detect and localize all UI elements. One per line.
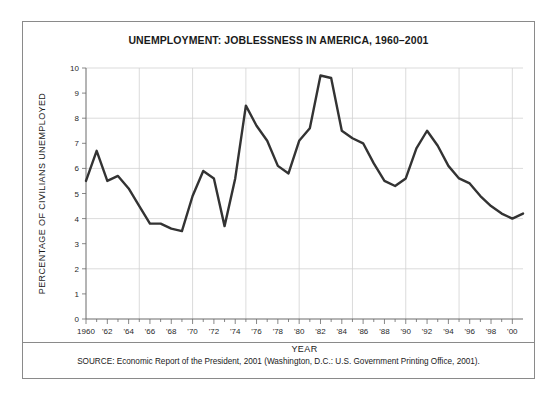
y-tick-label: 4 xyxy=(75,215,80,224)
y-tick-label: 2 xyxy=(75,265,80,274)
y-tick-label: 7 xyxy=(75,139,80,148)
x-tick-label: '00 xyxy=(507,327,518,336)
x-tick-label: '84 xyxy=(337,327,348,336)
x-tick-label: '94 xyxy=(443,327,454,336)
x-tick-label: '74 xyxy=(230,327,241,336)
x-tick-label: '88 xyxy=(379,327,390,336)
x-tick-label: '66 xyxy=(145,327,156,336)
plot-area: 012345678910 1960'62'64'66'68'70'72'74'7… xyxy=(23,22,536,380)
x-tick-label: '86 xyxy=(358,327,369,336)
unemployment-rate-series xyxy=(86,76,523,232)
x-axis-label: YEAR xyxy=(291,344,317,354)
x-tick-label: '92 xyxy=(422,327,433,336)
line-chart-svg: 012345678910 1960'62'64'66'68'70'72'74'7… xyxy=(23,22,536,380)
x-axis-ticks: 1960'62'64'66'68'70'72'74'76'78'80'82'84… xyxy=(77,319,518,336)
y-axis-label: PERCENTAGE OF CIVILIANS UNEMPLOYED xyxy=(37,93,47,295)
x-gridlines xyxy=(139,68,512,319)
x-tick-label: '96 xyxy=(464,327,475,336)
y-tick-label: 10 xyxy=(70,64,79,73)
x-tick-label: '78 xyxy=(273,327,284,336)
y-tick-label: 6 xyxy=(75,164,80,173)
y-tick-label: 0 xyxy=(75,315,80,324)
x-tick-label: '64 xyxy=(123,327,134,336)
y-gridlines xyxy=(86,68,523,269)
source-note: SOURCE: Economic Report of the President… xyxy=(23,357,534,366)
x-tick-label: '72 xyxy=(209,327,220,336)
y-axis-ticks: 012345678910 xyxy=(70,64,86,324)
x-tick-label: '68 xyxy=(166,327,177,336)
y-tick-label: 9 xyxy=(75,89,80,98)
x-tick-label: '62 xyxy=(102,327,113,336)
y-tick-label: 3 xyxy=(75,240,80,249)
x-tick-label: '98 xyxy=(486,327,497,336)
x-tick-label: 1960 xyxy=(77,327,95,336)
y-tick-label: 5 xyxy=(75,190,80,199)
y-tick-label: 1 xyxy=(75,290,80,299)
x-tick-label: '76 xyxy=(251,327,262,336)
figure-panel: UNEMPLOYMENT: JOBLESSNESS IN AMERICA, 19… xyxy=(22,21,535,379)
y-tick-label: 8 xyxy=(75,114,80,123)
x-tick-label: '70 xyxy=(187,327,198,336)
x-tick-label: '90 xyxy=(401,327,412,336)
x-tick-label: '80 xyxy=(294,327,305,336)
source-divider xyxy=(23,342,534,343)
x-tick-label: '82 xyxy=(315,327,326,336)
